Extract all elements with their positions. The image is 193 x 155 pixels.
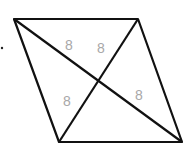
parallelogram-diagram: 8 8 8 8 — [0, 0, 193, 155]
label-bottom-left: 8 — [63, 93, 71, 109]
label-bottom-right: 8 — [135, 87, 143, 103]
label-top-right: 8 — [97, 40, 105, 56]
dot-marker — [1, 47, 3, 49]
label-top-left: 8 — [65, 37, 73, 53]
